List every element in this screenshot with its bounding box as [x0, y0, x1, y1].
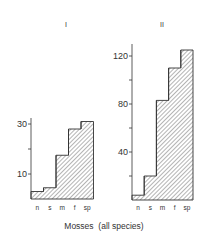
- y-tick-label: 80: [118, 99, 128, 109]
- chart-title-2: II: [160, 21, 164, 28]
- x-category-label: sp: [84, 204, 91, 212]
- chart-panel-1: 1030nsmfsp: [17, 118, 94, 212]
- x-category-label: m: [160, 204, 165, 211]
- x-category-label: s: [48, 204, 52, 211]
- x-category-label: n: [35, 204, 39, 211]
- x-category-label: n: [136, 204, 140, 211]
- y-tick-label: 30: [17, 119, 27, 129]
- x-axis-label: Mosses (all species): [64, 221, 144, 231]
- y-tick-label: 120: [113, 51, 128, 61]
- chart-figure: I II 1030nsmfsp 4080120nsmfsp Mosses (al…: [0, 0, 205, 241]
- x-category-label: sp: [183, 204, 190, 212]
- y-tick-label: 40: [118, 147, 128, 157]
- histogram-bars: [31, 122, 94, 200]
- x-category-label: s: [149, 204, 153, 211]
- x-category-label: f: [74, 204, 76, 211]
- x-category-label: f: [174, 204, 176, 211]
- y-tick-label: 10: [17, 169, 27, 179]
- x-category-label: m: [60, 204, 65, 211]
- histogram-bars: [132, 50, 193, 200]
- chart-panel-2: 4080120nsmfsp: [113, 44, 193, 212]
- chart-title-1: I: [65, 21, 67, 28]
